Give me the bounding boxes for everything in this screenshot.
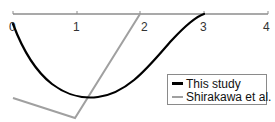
- tick-label-2: 2: [141, 20, 148, 34]
- legend-swatch-this-study: [172, 82, 183, 85]
- tick-label-3: 3: [200, 20, 207, 34]
- legend-item-this-study: This study: [172, 77, 262, 90]
- legend-label-this-study: This study: [186, 77, 241, 91]
- tick-label-4: 4: [263, 20, 270, 34]
- legend-item-shirakawa: Shirakawa et al.: [172, 90, 262, 103]
- x-axis-tick-labels: 0 1 2 3 4: [9, 20, 270, 34]
- legend-swatch-shirakawa: [172, 96, 183, 98]
- chart-legend: This study Shirakawa et al.: [167, 74, 267, 105]
- legend-label-shirakawa: Shirakawa et al.: [186, 90, 271, 104]
- tick-label-1: 1: [73, 20, 80, 34]
